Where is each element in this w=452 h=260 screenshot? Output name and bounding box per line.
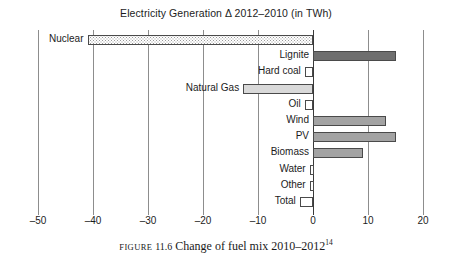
bar-natural-gas: [243, 84, 313, 94]
bar-row: PV: [0, 129, 452, 145]
bar-row: Water: [0, 162, 452, 178]
caption-figure-number: 11.6: [155, 241, 172, 252]
bar-row: Nuclear: [0, 32, 452, 48]
bar-row: Oil: [0, 97, 452, 113]
bar-wind: [313, 116, 386, 126]
caption-footnote-marker: 14: [325, 238, 333, 247]
bar-nuclear: [88, 35, 314, 45]
figure-caption: Figure 11.6 Change of fuel mix 2010–2012…: [0, 238, 452, 254]
x-tick-label: –10: [250, 215, 267, 226]
category-label-hard-coal: Hard coal: [0, 65, 301, 76]
category-label-water: Water: [0, 163, 306, 174]
bar-total: [300, 197, 313, 207]
figure-container: Electricity Generation Δ 2012–2010 (in T…: [0, 0, 452, 260]
x-tick-label: –50: [30, 215, 47, 226]
category-label-biomass: Biomass: [0, 146, 309, 157]
category-label-total: Total: [0, 195, 296, 206]
x-tick-label: –40: [85, 215, 102, 226]
caption-figure-word: Figure: [119, 242, 152, 252]
bar-row: Wind: [0, 113, 452, 129]
category-label-pv: PV: [0, 130, 309, 141]
x-tick-label: 10: [362, 215, 373, 226]
bar-hard-coal: [305, 67, 313, 77]
caption-text: Change of fuel mix 2010–2012: [175, 239, 325, 253]
category-label-natural-gas: Natural Gas: [0, 82, 239, 93]
bar-pv: [313, 132, 396, 142]
plot-area: NuclearLigniteHard coalNatural GasOilWin…: [0, 30, 452, 215]
bar-row: Total: [0, 194, 452, 210]
bar-other: [310, 181, 314, 191]
bar-row: Biomass: [0, 145, 452, 161]
bar-rows: NuclearLigniteHard coalNatural GasOilWin…: [0, 30, 452, 215]
category-label-oil: Oil: [0, 98, 301, 109]
bar-row: Lignite: [0, 48, 452, 64]
x-axis: –50–40–30–20–1001020: [0, 215, 452, 231]
category-label-lignite: Lignite: [0, 49, 309, 60]
x-tick-label: –20: [195, 215, 212, 226]
category-label-other: Other: [0, 179, 306, 190]
x-tick-label: –30: [140, 215, 157, 226]
x-tick-label: 0: [310, 215, 316, 226]
bar-lignite: [313, 51, 396, 61]
category-label-wind: Wind: [0, 114, 309, 125]
bar-oil: [305, 100, 313, 110]
bar-row: Other: [0, 178, 452, 194]
bar-water: [310, 165, 314, 175]
x-tick-label: 20: [417, 215, 428, 226]
bar-row: Natural Gas: [0, 81, 452, 97]
category-label-nuclear: Nuclear: [0, 33, 84, 44]
bar-biomass: [313, 148, 363, 158]
chart-title: Electricity Generation Δ 2012–2010 (in T…: [0, 7, 452, 19]
bar-row: Hard coal: [0, 64, 452, 80]
